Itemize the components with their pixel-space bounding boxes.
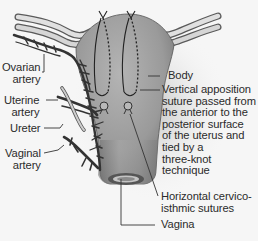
label-vertical-apposition-suture: Vertical apposition suture passed from t…: [162, 84, 256, 177]
uterine-suture-diagram: Ovarian artery Uterine artery Ureter Vag…: [0, 0, 258, 241]
label-horizontal-cervico-isthmic-sutures: Horizontal cervico- isthmic sutures: [161, 191, 252, 214]
label-vagina: Vagina: [161, 219, 194, 231]
label-vaginal-artery: Vaginal artery: [5, 148, 41, 171]
label-uterine-artery: Uterine artery: [4, 95, 39, 118]
label-ovarian-artery: Ovarian artery: [2, 62, 40, 85]
label-body: Body: [168, 70, 193, 82]
label-ureter: Ureter: [10, 123, 40, 135]
